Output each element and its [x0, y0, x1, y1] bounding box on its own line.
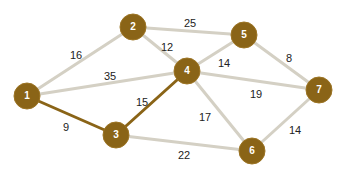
node-2: 2	[120, 14, 146, 40]
node-7: 7	[306, 77, 332, 103]
edge-weight-label: 14	[289, 124, 301, 136]
node-label: 4	[184, 65, 190, 76]
node-4: 4	[174, 58, 200, 84]
node-6: 6	[239, 138, 265, 164]
edge-weight-label: 22	[178, 149, 190, 161]
node-label: 1	[24, 90, 30, 101]
node-1: 1	[14, 83, 40, 109]
weighted-graph-diagram: 1635925121522141917814 1234567	[0, 0, 348, 174]
edge-weight-label: 16	[70, 49, 82, 61]
edge-weight-label: 9	[63, 121, 69, 133]
edge-weight-label: 15	[136, 96, 148, 108]
edge-weight-label: 25	[184, 17, 196, 29]
edge-1-2	[27, 27, 133, 96]
edge-weight-label: 8	[286, 52, 292, 64]
node-3: 3	[103, 122, 129, 148]
node-label: 5	[241, 29, 247, 40]
node-5: 5	[231, 22, 257, 48]
node-label: 3	[113, 129, 119, 140]
node-label: 6	[249, 145, 255, 156]
edge-weight-label: 17	[199, 111, 211, 123]
edge-4-6	[187, 71, 252, 151]
edge-weight-label: 19	[250, 88, 262, 100]
graph-canvas: 1635925121522141917814 1234567	[0, 0, 348, 174]
node-label: 2	[130, 21, 136, 32]
edge-weight-label: 12	[161, 41, 173, 53]
edge-weight-label: 14	[218, 57, 230, 69]
node-label: 7	[316, 84, 322, 95]
edge-weight-label: 35	[104, 70, 116, 82]
edge-1-3	[27, 96, 116, 135]
